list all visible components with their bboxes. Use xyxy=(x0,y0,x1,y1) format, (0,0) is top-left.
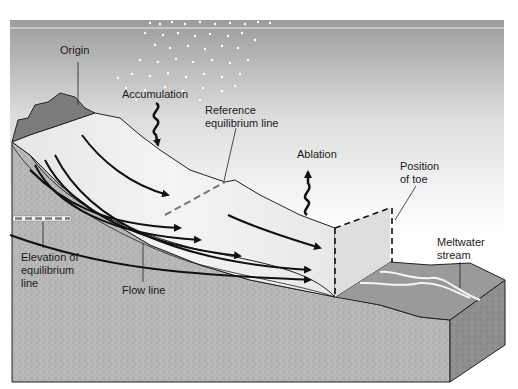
label-reference-equilibrium-line: Reference equilibrium line xyxy=(205,104,278,130)
label-flow-line: Flow line xyxy=(122,284,165,297)
label-position-of-toe: Position of toe xyxy=(400,160,439,186)
label-elevation-of-equilibrium-line: Elevation of equilibrium line xyxy=(21,251,78,290)
label-meltwater-stream: Meltwater stream xyxy=(437,236,485,262)
label-ablation: Ablation xyxy=(297,148,337,161)
label-accumulation: Accumulation xyxy=(122,88,188,101)
label-origin: Origin xyxy=(60,44,89,57)
glacier-diagram xyxy=(0,0,518,389)
